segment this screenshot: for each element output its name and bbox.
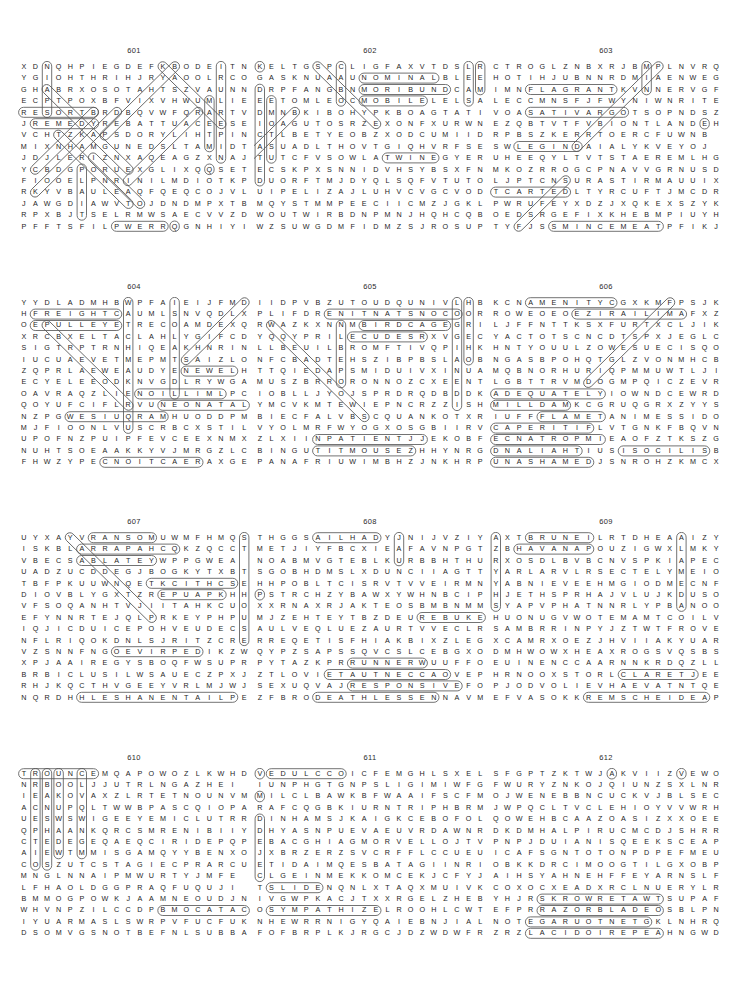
grid-cell: I bbox=[358, 61, 370, 72]
grid-cell: V bbox=[560, 376, 572, 387]
grid-cell: B bbox=[122, 107, 134, 118]
grid-cell: V bbox=[416, 61, 428, 72]
grid-cell: T bbox=[180, 692, 192, 703]
grid-cell: F bbox=[451, 141, 463, 152]
grid-cell: R bbox=[382, 836, 394, 847]
grid-cell: E bbox=[490, 118, 502, 129]
grid-cell: M bbox=[652, 209, 664, 220]
grid-cell: L bbox=[99, 904, 111, 915]
grid-cell: W bbox=[513, 813, 525, 824]
grid-cell: T bbox=[594, 152, 606, 163]
grid-cell: D bbox=[583, 376, 595, 387]
grid-cell: O bbox=[583, 669, 595, 680]
grid-row: CLGEINMEKKOMCEKJCFYJ bbox=[254, 870, 486, 881]
grid-cell: E bbox=[641, 927, 653, 938]
grid-cell: J bbox=[594, 635, 606, 646]
grid-cell: E bbox=[324, 669, 336, 680]
grid-cell: L bbox=[111, 399, 123, 410]
grid-cell: T bbox=[238, 543, 250, 554]
grid-cell: R bbox=[474, 308, 486, 319]
grid-cell: R bbox=[710, 376, 722, 387]
grid-cell: B bbox=[289, 555, 301, 566]
grid-cell: O bbox=[652, 354, 664, 365]
grid-cell: F bbox=[215, 870, 227, 881]
grid-cell: C bbox=[41, 331, 53, 342]
grid-cell: B bbox=[53, 84, 65, 95]
grid-cell: D bbox=[629, 904, 641, 915]
grid-row: ISKBLARRAPAHCQKZQCCT bbox=[18, 543, 250, 554]
grid-cell: A bbox=[393, 543, 405, 554]
grid-cell: L bbox=[53, 870, 65, 881]
grid-row: TBFPKUUWNQETKCITHCSE bbox=[18, 578, 250, 589]
grid-cell: K bbox=[157, 61, 169, 72]
grid-cell: N bbox=[676, 870, 688, 881]
grid-cell: O bbox=[180, 399, 192, 410]
grid-row: YARLARVLRSECTELYMEIO bbox=[490, 566, 722, 577]
grid-cell: H bbox=[266, 825, 278, 836]
grid-cell: O bbox=[710, 566, 722, 577]
grid-cell: K bbox=[502, 825, 514, 836]
grid-cell: P bbox=[664, 107, 676, 118]
grid-cell: R bbox=[416, 825, 428, 836]
grid-cell: S bbox=[41, 107, 53, 118]
grid-cell: M bbox=[324, 859, 336, 870]
grid-cell: E bbox=[571, 308, 583, 319]
grid-cell: C bbox=[502, 297, 514, 308]
grid-cell: E bbox=[122, 813, 134, 824]
grid-cell: P bbox=[18, 221, 30, 232]
grid-cell: T bbox=[560, 388, 572, 399]
grid-cell: J bbox=[41, 680, 53, 691]
grid-cell: C bbox=[451, 790, 463, 801]
grid-cell: W bbox=[41, 456, 53, 467]
grid-cell: N bbox=[513, 433, 525, 444]
grid-cell: S bbox=[463, 141, 475, 152]
grid-cell: L bbox=[548, 555, 560, 566]
grid-cell: S bbox=[699, 445, 711, 456]
grid-cell: S bbox=[687, 433, 699, 444]
grid-row: UESWSWIGEEYEMICLUTRR bbox=[18, 813, 250, 824]
grid-cell: B bbox=[525, 118, 537, 129]
grid-cell: B bbox=[474, 893, 486, 904]
grid-cell: B bbox=[451, 802, 463, 813]
grid-cell: N bbox=[474, 118, 486, 129]
grid-cell: S bbox=[111, 129, 123, 140]
grid-cell: Z bbox=[18, 365, 30, 376]
grid-cell: R bbox=[536, 904, 548, 915]
grid-cell: H bbox=[64, 141, 76, 152]
grid-cell: R bbox=[490, 308, 502, 319]
grid-cell: I bbox=[629, 411, 641, 422]
grid-cell: M bbox=[490, 365, 502, 376]
grid-cell: F bbox=[111, 95, 123, 106]
grid-cell: I bbox=[347, 578, 359, 589]
grid-cell: W bbox=[502, 779, 514, 790]
grid-cell: G bbox=[53, 198, 65, 209]
grid-cell: E bbox=[525, 152, 537, 163]
grid-cell: L bbox=[76, 175, 88, 186]
grid-cell: C bbox=[192, 118, 204, 129]
grid-cell: G bbox=[502, 354, 514, 365]
grid-cell: Y bbox=[594, 186, 606, 197]
grid-cell: E bbox=[687, 692, 699, 703]
grid-cell: L bbox=[324, 623, 336, 634]
grid-cell: C bbox=[169, 578, 181, 589]
grid-cell: O bbox=[393, 600, 405, 611]
grid-cell: O bbox=[111, 927, 123, 938]
grid-cell: T bbox=[536, 186, 548, 197]
grid-cell: S bbox=[664, 779, 676, 790]
grid-cell: M bbox=[370, 342, 382, 353]
grid-cell: Q bbox=[122, 411, 134, 422]
grid-cell: X bbox=[676, 779, 688, 790]
grid-cell: G bbox=[277, 893, 289, 904]
grid-cell: R bbox=[238, 657, 250, 668]
grid-cell: N bbox=[416, 308, 428, 319]
grid-cell: E bbox=[583, 680, 595, 691]
grid-cell: C bbox=[416, 129, 428, 140]
grid-cell: P bbox=[324, 61, 336, 72]
grid-cell: V bbox=[560, 566, 572, 577]
grid-cell: R bbox=[134, 790, 146, 801]
grid-cell: T bbox=[652, 623, 664, 634]
grid-cell: R bbox=[652, 152, 664, 163]
grid-cell: E bbox=[111, 365, 123, 376]
grid-cell: O bbox=[30, 399, 42, 410]
grid-cell: J bbox=[416, 221, 428, 232]
